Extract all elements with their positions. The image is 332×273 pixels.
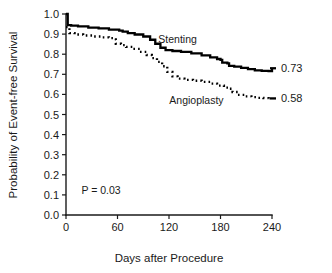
y-tick-label: 0.5: [44, 109, 59, 121]
y-tick-label: 0.8: [44, 48, 59, 60]
x-tick-label: 120: [160, 221, 178, 233]
series-label-angioplasty: Angioplasty: [169, 94, 224, 106]
endpoint-value-angioplasty: 0.58: [281, 92, 302, 104]
y-tick-label: 0.2: [44, 169, 59, 181]
y-tick-label: 0.6: [44, 88, 59, 100]
x-tick-label: 0: [63, 221, 69, 233]
survival-curve-figure: 0.00.10.20.30.40.50.60.70.80.91.0 060120…: [0, 0, 332, 273]
annotation-p-value: P = 0.03: [81, 184, 120, 196]
x-axis-group: 060120180240: [63, 215, 281, 233]
y-tick-label: 0.3: [44, 149, 59, 161]
x-axis-ticks: 060120180240: [63, 215, 281, 233]
y-tick-label: 0.4: [44, 129, 59, 141]
endpoint-value-stenting: 0.73: [281, 62, 302, 74]
y-axis-ticks: 0.00.10.20.30.40.50.60.70.80.91.0: [44, 8, 66, 221]
y-axis-title: Probability of Event-free Survival: [7, 32, 19, 199]
x-tick-label: 60: [111, 221, 123, 233]
chart-canvas: 0.00.10.20.30.40.50.60.70.80.91.0 060120…: [0, 0, 332, 273]
y-tick-label: 0.1: [44, 189, 59, 201]
y-tick-label: 0.7: [44, 68, 59, 80]
annotation-group: P = 0.03: [81, 184, 120, 196]
x-tick-label: 240: [263, 221, 281, 233]
y-tick-label: 1.0: [44, 8, 59, 20]
y-tick-label: 0.9: [44, 28, 59, 40]
series-label-stenting: Stenting: [158, 33, 197, 45]
y-tick-label: 0.0: [44, 209, 59, 221]
series-stenting: 0.73Stenting: [66, 14, 302, 74]
y-axis-group: 0.00.10.20.30.40.50.60.70.80.91.0: [44, 8, 66, 221]
series-group: 0.73Stenting0.58Angioplasty: [66, 14, 302, 106]
x-axis-title: Days after Procedure: [115, 252, 224, 264]
x-tick-label: 180: [211, 221, 229, 233]
